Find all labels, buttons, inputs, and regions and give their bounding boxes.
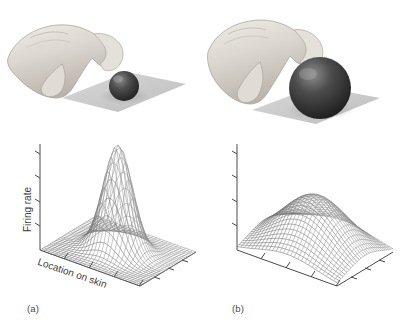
sphere-large (289, 57, 351, 119)
y-axis-label: Firing rate (22, 187, 33, 232)
hand-small-sphere-illustration (0, 6, 203, 134)
panel-b-caption: (b) (232, 303, 244, 314)
surface-plot-a: Firing rate Location on skin (0, 136, 203, 296)
surface-plot-b (204, 136, 407, 296)
panel-a-caption: (a) (27, 303, 39, 314)
x-axis-front-right (337, 252, 393, 286)
sphere-small (109, 71, 139, 101)
surface-plot-b-svg (204, 136, 407, 296)
sphere-highlight (299, 68, 317, 80)
panel-b: (b) (204, 0, 407, 328)
panel-a: Firing rate Location on skin (a) (0, 0, 203, 328)
photo-hand-large-sphere (204, 6, 407, 134)
figure-two-panel-tactile-coding: Firing rate Location on skin (a) (0, 0, 407, 328)
photo-hand-small-sphere (0, 6, 203, 134)
hand-large-sphere-illustration (204, 6, 407, 134)
sphere-highlight (113, 76, 123, 83)
